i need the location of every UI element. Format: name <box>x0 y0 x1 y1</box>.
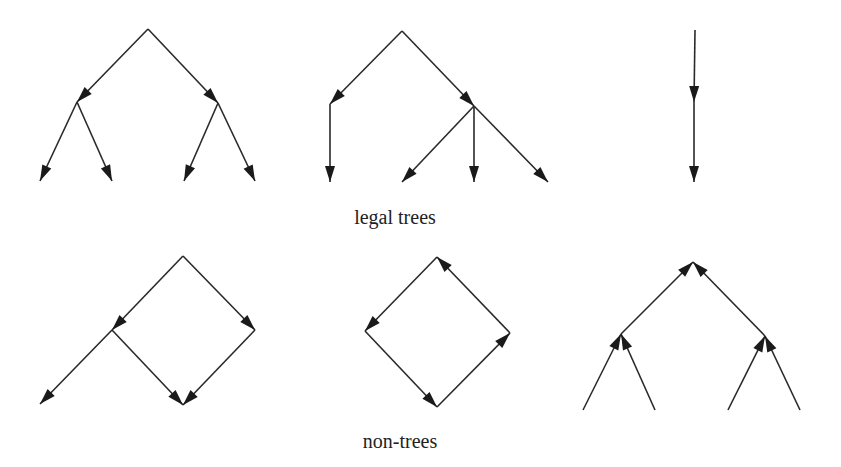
arrowhead-icon <box>689 86 699 102</box>
arrowhead-icon <box>244 164 255 181</box>
tree-diagram-canvas <box>0 0 841 467</box>
arrowhead-icon <box>325 166 335 182</box>
arrowhead-icon <box>753 336 765 353</box>
graph-non-tree-cycle <box>365 257 510 407</box>
arrowhead-icon <box>101 164 112 181</box>
graph-non-tree-shared-child <box>40 256 255 405</box>
arrowhead-icon <box>40 164 51 181</box>
graph-legal-tree-mixed <box>325 31 548 182</box>
caption-non-trees: non-trees <box>363 430 437 453</box>
arrowhead-icon <box>609 334 621 351</box>
caption-legal-trees: legal trees <box>354 206 436 229</box>
arrowhead-icon <box>469 166 479 182</box>
arrowhead-icon <box>765 336 776 353</box>
graph-non-tree-inverted <box>583 262 800 410</box>
graph-legal-tree-binary <box>40 29 255 181</box>
arrowhead-icon <box>689 166 699 182</box>
arrowhead-icon <box>184 164 195 181</box>
arrowhead-icon <box>621 334 632 351</box>
graph-legal-tree-chain <box>689 30 699 182</box>
